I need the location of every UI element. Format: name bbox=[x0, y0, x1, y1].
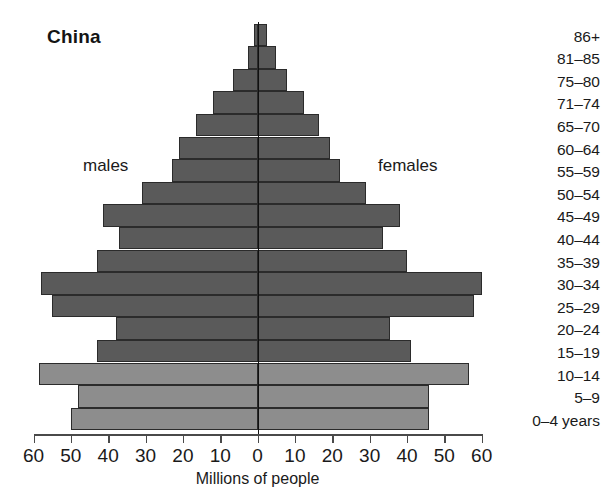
age-group-label-10–14: 10–14 bbox=[557, 367, 600, 385]
bar-males-40–44 bbox=[119, 227, 257, 250]
bar-males-0–4 bbox=[71, 408, 258, 431]
population-pyramid-chart: China males females 60504030201001020304… bbox=[0, 0, 606, 503]
bar-males-55–59 bbox=[172, 159, 258, 182]
age-group-label-71–74: 71–74 bbox=[557, 95, 600, 113]
age-group-label-0–4: 0–4years bbox=[532, 412, 600, 430]
x-tick bbox=[108, 434, 109, 443]
bar-females-71–74 bbox=[258, 91, 305, 114]
bar-males-30–34 bbox=[41, 272, 258, 295]
x-tick-label: 40 bbox=[88, 445, 128, 467]
x-tick-label: 30 bbox=[126, 445, 166, 467]
age-group-label-25–29: 25–29 bbox=[557, 299, 600, 317]
bar-males-60–64 bbox=[179, 137, 257, 160]
age-group-label-15–19: 15–19 bbox=[557, 344, 600, 362]
bar-females-0–4 bbox=[258, 408, 430, 431]
bar-females-45–49 bbox=[258, 204, 400, 227]
x-tick-label: 60 bbox=[14, 445, 54, 467]
age-group-label-30–34: 30–34 bbox=[557, 276, 600, 294]
bar-males-65–70 bbox=[196, 114, 258, 137]
age-group-label-60–64: 60–64 bbox=[557, 141, 600, 159]
age-group-label-86+: 86+ bbox=[574, 28, 600, 46]
age-group-label-81–85: 81–85 bbox=[557, 50, 600, 68]
x-tick bbox=[220, 434, 221, 443]
bar-females-81–85 bbox=[258, 46, 277, 69]
bar-males-35–39 bbox=[97, 250, 258, 273]
x-tick-label: 20 bbox=[163, 445, 203, 467]
x-tick bbox=[332, 434, 333, 443]
age-group-label-65–70: 65–70 bbox=[557, 118, 600, 136]
bar-females-30–34 bbox=[258, 272, 482, 295]
bar-females-75–80 bbox=[258, 69, 288, 92]
bar-males-25–29 bbox=[52, 295, 257, 318]
x-tick bbox=[407, 434, 408, 443]
x-tick bbox=[146, 434, 147, 443]
age-group-label-45–49: 45–49 bbox=[557, 208, 600, 226]
x-tick-label: 60 bbox=[462, 445, 502, 467]
x-tick-label: 30 bbox=[350, 445, 390, 467]
x-tick-label: 10 bbox=[275, 445, 315, 467]
bar-males-81–85 bbox=[248, 46, 257, 69]
bar-females-65–70 bbox=[258, 114, 320, 137]
bar-females-60–64 bbox=[258, 137, 331, 160]
x-tick bbox=[370, 434, 371, 443]
bar-females-35–39 bbox=[258, 250, 407, 273]
x-tick-label: 0 bbox=[238, 445, 278, 467]
bar-males-15–19 bbox=[97, 340, 258, 363]
bar-males-50–54 bbox=[142, 182, 258, 205]
age-group-label-35–39: 35–39 bbox=[557, 254, 600, 272]
x-tick bbox=[444, 434, 445, 443]
x-axis-title: Millions of people bbox=[24, 470, 492, 488]
bar-females-86+ bbox=[258, 24, 267, 47]
center-axis-line bbox=[258, 22, 259, 434]
x-tick-label: 50 bbox=[51, 445, 91, 467]
x-tick bbox=[71, 434, 72, 443]
bar-males-45–49 bbox=[103, 204, 258, 227]
x-tick bbox=[34, 434, 35, 443]
age-group-label-50–54: 50–54 bbox=[557, 186, 600, 204]
x-tick-label: 40 bbox=[387, 445, 427, 467]
bar-females-20–24 bbox=[258, 317, 391, 340]
bar-males-71–74 bbox=[213, 91, 258, 114]
x-tick-label: 10 bbox=[200, 445, 240, 467]
age-group-label-20–24: 20–24 bbox=[557, 321, 600, 339]
bar-females-50–54 bbox=[258, 182, 366, 205]
bar-females-15–19 bbox=[258, 340, 411, 363]
age-group-labels: 86+81–8575–8071–7465–7060–6455–5950–5445… bbox=[497, 18, 606, 438]
x-tick bbox=[295, 434, 296, 443]
bar-females-5–9 bbox=[258, 385, 430, 408]
x-tick-label: 50 bbox=[424, 445, 464, 467]
age-group-label-75–80: 75–80 bbox=[557, 73, 600, 91]
bar-males-20–24 bbox=[116, 317, 258, 340]
age-group-label-5–9: 5–9 bbox=[574, 389, 600, 407]
age-group-label-55–59: 55–59 bbox=[557, 163, 600, 181]
x-tick bbox=[482, 434, 483, 443]
x-tick bbox=[258, 434, 259, 443]
age-group-label-40–44: 40–44 bbox=[557, 231, 600, 249]
bar-females-10–14 bbox=[258, 363, 469, 386]
bar-males-5–9 bbox=[78, 385, 257, 408]
x-tick-label: 20 bbox=[312, 445, 352, 467]
bar-females-25–29 bbox=[258, 295, 475, 318]
bar-males-75–80 bbox=[233, 69, 257, 92]
bar-females-40–44 bbox=[258, 227, 383, 250]
x-tick bbox=[183, 434, 184, 443]
bar-males-10–14 bbox=[39, 363, 257, 386]
bar-females-55–59 bbox=[258, 159, 340, 182]
